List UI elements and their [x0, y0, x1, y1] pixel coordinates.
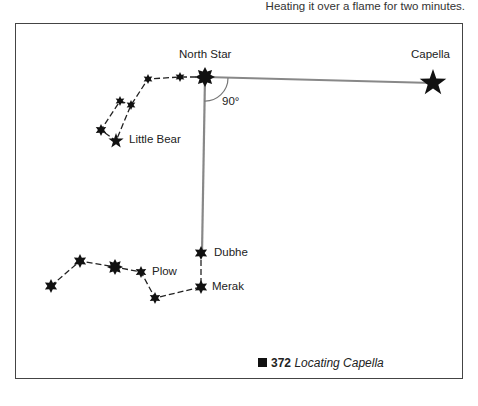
figure-caption: 372 Locating Capella [258, 356, 384, 370]
caption-square-icon [258, 358, 267, 367]
capella-label: Capella [411, 48, 450, 60]
little-bear-label: Little Bear [129, 133, 181, 145]
plow-lines [51, 253, 201, 298]
north-star-label: North Star [179, 48, 231, 60]
plow-star-icon [74, 254, 86, 268]
dubhe-star-icon [195, 246, 207, 260]
north-star-to-capella-line [205, 77, 433, 83]
capella-star-icon [420, 69, 447, 94]
plow-label: Plow [152, 265, 177, 277]
plow-star-icon [107, 259, 123, 275]
little-bear-star-icon [108, 133, 123, 147]
merak-star-icon [195, 280, 207, 294]
dubhe-label: Dubhe [214, 246, 248, 258]
figure-title: Locating Capella [294, 356, 383, 370]
figure-number: 372 [271, 356, 291, 370]
plow-star-icon [45, 279, 57, 293]
plow-star-icon [150, 292, 160, 304]
stars [45, 67, 446, 304]
north-star-icon [195, 67, 215, 87]
merak-label: Merak [212, 280, 244, 292]
angle-label: 90° [222, 95, 239, 107]
north-star-to-dubhe-line [202, 77, 205, 253]
little-bear-star-icon [96, 124, 106, 136]
star-chart [0, 0, 478, 406]
plow-star-icon [136, 266, 146, 278]
little-bear-lines [101, 77, 205, 141]
